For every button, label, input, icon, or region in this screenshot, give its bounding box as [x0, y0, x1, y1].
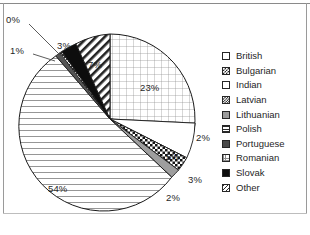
legend-label-portuguese: Portuguese [236, 139, 285, 149]
legend-label-slovak: Slovak [236, 168, 265, 178]
legend-swatch-slovak-icon [222, 169, 230, 177]
data-label-other: 7% [88, 59, 102, 70]
legend-label-romanian: Romanian [236, 153, 279, 163]
data-label-latvian: 3% [188, 174, 202, 185]
legend-label-british: British [236, 51, 262, 61]
legend-swatch-indian-icon [222, 81, 230, 89]
legend-swatch-latvian-icon [222, 96, 230, 104]
legend-item-portuguese[interactable]: Portuguese [222, 137, 308, 152]
data-label-indian: 5% [166, 151, 180, 162]
data-label-lithuanian: 2% [166, 192, 180, 203]
legend-item-bulgarian[interactable]: Bulgarian [222, 64, 308, 79]
legend-swatch-bulgarian-icon [222, 67, 230, 75]
legend-swatch-polish-icon [222, 125, 230, 133]
chart-legend: British Bulgarian Indian Latvian Lithuan… [222, 49, 308, 195]
leader-line-one [33, 54, 55, 61]
data-label-british: 23% [140, 82, 159, 93]
legend-item-indian[interactable]: Indian [222, 78, 308, 93]
pie-slices [19, 34, 195, 211]
data-label-slovak: 3% [57, 40, 71, 51]
legend-item-latvian[interactable]: Latvian [222, 93, 308, 108]
legend-swatch-romanian-icon [222, 154, 230, 162]
legend-label-latvian: Latvian [236, 95, 267, 105]
data-label-romanian: 2% [196, 132, 210, 143]
legend-item-slovak[interactable]: Slovak [222, 166, 308, 181]
legend-item-other[interactable]: Other [222, 180, 308, 195]
data-label-polish: 54% [48, 183, 67, 194]
legend-swatch-other-icon [222, 184, 230, 192]
legend-item-romanian[interactable]: Romanian [222, 151, 308, 166]
legend-swatch-british-icon [222, 52, 230, 60]
chart-plot-area: 0% 1% 3% 7% 23% 2% 5% 3% 2% 54% British … [0, 4, 310, 212]
legend-item-polish[interactable]: Polish [222, 122, 308, 137]
pie-chart-figure: 0% 1% 3% 7% 23% 2% 5% 3% 2% 54% British … [0, 0, 310, 235]
legend-label-polish: Polish [236, 124, 262, 134]
data-label-portuguese: 1% [10, 45, 24, 56]
legend-label-other: Other [236, 183, 260, 193]
legend-label-bulgarian: Bulgarian [236, 66, 276, 76]
legend-item-british[interactable]: British [222, 49, 308, 64]
frame-bottom-rule [3, 213, 307, 214]
data-label-bulgarian: 0% [6, 14, 20, 25]
legend-swatch-portuguese-icon [222, 140, 230, 148]
legend-label-indian: Indian [236, 80, 262, 90]
legend-label-lithuanian: Lithuanian [236, 110, 280, 120]
legend-item-lithuanian[interactable]: Lithuanian [222, 107, 308, 122]
legend-swatch-lithuanian-icon [222, 111, 230, 119]
